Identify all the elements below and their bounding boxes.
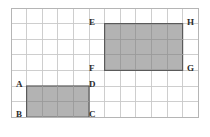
upper-right-rectangle — [105, 24, 183, 71]
label-e: E — [89, 18, 95, 27]
geometry-figure: ABCDEFGH — [0, 0, 210, 137]
label-d: D — [89, 80, 96, 89]
label-c: C — [89, 110, 96, 119]
label-a: A — [16, 80, 23, 89]
figure-canvas — [0, 0, 210, 137]
label-h: H — [187, 18, 194, 27]
label-g: G — [187, 64, 194, 73]
label-b: B — [16, 110, 22, 119]
label-f: F — [89, 64, 95, 73]
grid-plot-area — [0, 0, 210, 137]
